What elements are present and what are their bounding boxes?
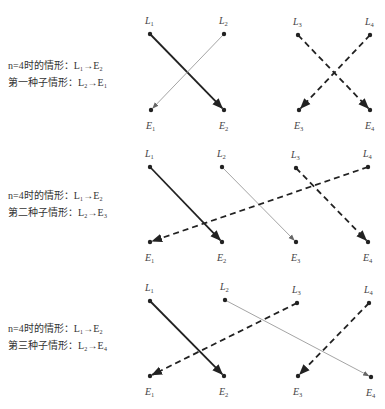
panel-3-node-L3: [295, 301, 299, 305]
panel-3-label-L1: L1: [144, 282, 154, 294]
panel-2-edge-L2-E3: [222, 167, 294, 240]
panel-3-label-L4: L4: [363, 284, 374, 296]
panel-2-edge-L3-E4: [296, 168, 366, 240]
panel-2-node-L4: [366, 165, 370, 169]
panel-3-node-L2: [223, 298, 227, 302]
panel-2-label-L3: L3: [290, 149, 300, 161]
panel-3-node-E2: [222, 374, 226, 378]
panel-3-edge-L4-E3: [300, 303, 369, 374]
panel-1-label-L2: L2: [218, 15, 228, 27]
panel-3-label-E4: E4: [365, 387, 376, 399]
panel-1-label-E4: E4: [364, 120, 375, 132]
panel-2-node-E2: [220, 240, 224, 244]
panel-3-edge-L2-E4: [225, 300, 369, 376]
panel-2-label-L2: L2: [216, 148, 226, 160]
panel-3-edge-L3-E1: [152, 303, 297, 375]
panel-1-node-L3: [296, 33, 300, 37]
panel-1-node-L2: [222, 32, 226, 36]
labels-layer: L1L2L3L4E1E2E3E4L1L2L3L4E1E2E3E4L1L2L3L4…: [144, 15, 376, 399]
panel-1-node-L4: [368, 33, 372, 37]
panel-2-label-L4: L4: [362, 148, 373, 160]
panel-3-label-E3: E3: [292, 386, 302, 398]
panel-2-node-L1: [148, 165, 152, 169]
panel-1-node-L1: [148, 32, 152, 36]
panel-2-node-E1: [148, 240, 152, 244]
panel-2-node-L3: [294, 166, 298, 170]
panel-3-label-E2: E2: [218, 386, 228, 398]
panel-2-label-E4: E4: [362, 252, 373, 264]
edges-layer: [150, 34, 370, 376]
panel-3-label-E1: E1: [144, 386, 154, 398]
panel-2-node-E4: [366, 240, 370, 244]
panel-3-label-L3: L3: [291, 284, 301, 296]
panel-3-node-L1: [148, 299, 152, 303]
panel-3-label-L2: L2: [219, 281, 229, 293]
panel-2-node-E3: [294, 240, 298, 244]
panel-1-edge-L4-E3: [301, 35, 370, 108]
panel-3-node-E3: [296, 374, 300, 378]
panel-1-edge-L1-E2: [150, 34, 222, 108]
panel-1-label-E1: E1: [145, 120, 155, 132]
panel-2-label-L1: L1: [144, 148, 154, 160]
panel-1-label-L1: L1: [144, 15, 154, 27]
panel-1-node-E1: [149, 108, 153, 112]
panel-2-label-E3: E3: [290, 252, 300, 264]
panel-3-node-E1: [148, 374, 152, 378]
panel-1-label-L3: L3: [292, 16, 302, 28]
matching-diagram: L1L2L3L4E1E2E3E4L1L2L3L4E1E2E3E4L1L2L3L4…: [0, 0, 385, 409]
panel-1-label-E2: E2: [218, 120, 228, 132]
panel-1-edge-L3-E4: [298, 35, 368, 108]
panel-1-node-E3: [297, 108, 301, 112]
panel-1-node-E2: [222, 108, 226, 112]
panel-2-node-L2: [220, 165, 224, 169]
panel-2-label-E1: E1: [144, 252, 154, 264]
panel-2-label-E2: E2: [216, 252, 226, 264]
panel-1-node-E4: [368, 108, 372, 112]
panel-3-node-E4: [369, 375, 373, 379]
panel-1-label-E3: E3: [293, 120, 303, 132]
panel-3-node-L4: [367, 301, 371, 305]
panel-1-label-L4: L4: [364, 16, 375, 28]
panel-1-edge-L2-E1: [153, 34, 224, 108]
panel-3-edge-L1-E2: [150, 301, 222, 374]
